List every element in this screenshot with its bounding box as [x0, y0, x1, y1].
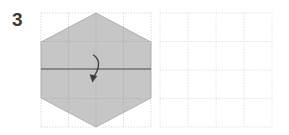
after-panel-grid: [160, 13, 272, 127]
diagram-canvas: [0, 0, 289, 135]
after-panel: [160, 13, 272, 127]
origami-step-diagram: 3: [0, 0, 289, 135]
before-panel: [41, 13, 151, 127]
